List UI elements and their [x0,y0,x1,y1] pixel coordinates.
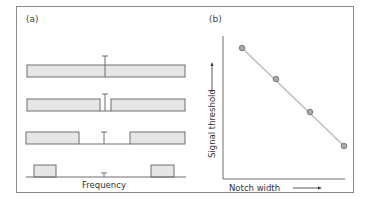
data-point [273,76,279,82]
threshold-line [242,48,344,146]
signal-threshold-label: Signal threshold [207,89,217,158]
noise-band-high [151,165,174,177]
noise-band-low [27,99,100,111]
data-point [307,109,313,115]
noise-band-low [26,132,79,144]
x-arrowhead-icon [318,187,322,190]
panel-a [26,56,186,177]
row-medium-notch [26,132,185,144]
notch-width-label: Notch width [229,183,280,193]
panel-b: Notch width Signal threshold [207,36,347,193]
row-no-notch [27,56,185,77]
noise-band-low [34,165,56,177]
noise-band-high [130,132,185,144]
figure-graphics: Frequency Notch width Signal threshold [0,0,370,202]
noise-band-high [111,99,185,111]
row-narrow-notch [27,94,185,111]
frequency-label: Frequency [82,180,126,190]
row-wide-notch [26,165,186,177]
noise-band [27,65,185,77]
data-point [341,143,347,149]
y-arrowhead-icon [211,62,214,66]
data-point [239,45,245,51]
